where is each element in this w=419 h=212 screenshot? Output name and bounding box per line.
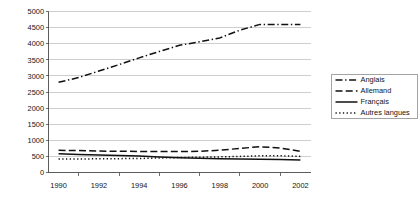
x-tick-label: 1998: [212, 181, 228, 190]
line-chart: 0500100015002000250030003500400045005000…: [0, 0, 419, 212]
x-tick-label: 2002: [292, 181, 308, 190]
x-tick-label: 1990: [50, 181, 66, 190]
y-tick-label: 3500: [28, 56, 44, 65]
legend-label-1: Allemand: [361, 86, 392, 95]
y-tick-label: 2000: [28, 104, 44, 113]
legend-label-3: Autres langues: [361, 108, 411, 117]
x-tick-label: 1994: [131, 181, 147, 190]
x-tick-label: 1996: [171, 181, 187, 190]
x-tick-label: 2000: [252, 181, 268, 190]
x-tick-label: 1992: [91, 181, 107, 190]
y-tick-label: 3000: [28, 72, 44, 81]
y-tick-label: 4000: [28, 39, 44, 48]
y-tick-label: 1500: [28, 120, 44, 129]
y-tick-label: 0: [40, 168, 44, 177]
y-tick-label: 500: [32, 152, 44, 161]
chart-container: 0500100015002000250030003500400045005000…: [0, 0, 419, 212]
legend-label-2: Français: [361, 97, 390, 106]
y-tick-label: 1000: [28, 136, 44, 145]
y-tick-label: 2500: [28, 88, 44, 97]
legend-label-0: Anglais: [361, 75, 386, 84]
y-tick-label: 5000: [28, 7, 44, 16]
y-tick-label: 4500: [28, 23, 44, 32]
